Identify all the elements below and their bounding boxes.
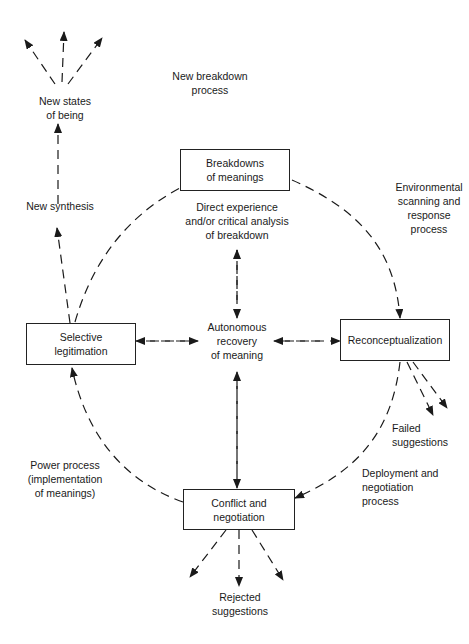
box-text: of meanings (206, 170, 264, 184)
box-text: legitimation (54, 344, 107, 358)
new-states-arrow-left (25, 40, 55, 84)
rejected-arrow-left (190, 530, 226, 577)
box-reconceptualization: Reconceptualization (340, 319, 450, 361)
arc-breakdowns-to-reconceptualization (292, 180, 400, 318)
box-breakdowns-of-meanings: Breakdownsof meanings (180, 149, 290, 191)
new-states-arrow-right (68, 38, 102, 84)
selective-to-synthesis-arrow (57, 228, 70, 323)
box-text: negotiation (211, 510, 266, 524)
failed-arrow-1 (407, 362, 433, 415)
box-conflict-and-negotiation: Conflict andnegotiation (183, 489, 295, 530)
box-text: Conflict and (211, 496, 266, 510)
box-text: Selective (54, 330, 107, 344)
label-environmental-scanning: Environmentalscanning andresponseprocess (389, 180, 469, 236)
label-direct-experience: Direct experienceand/or critical analysi… (172, 200, 302, 242)
label-rejected-suggestions: Rejectedsuggestions (200, 590, 280, 618)
label-power-process: Power process(implementationof meanings) (24, 458, 106, 500)
label-new-states-of-being: New statesof being (30, 94, 100, 122)
label-new-synthesis: New synthesis (20, 199, 100, 213)
box-text: Reconceptualization (348, 333, 443, 347)
label-autonomous-recovery: Autonomousrecoveryof meaning (195, 320, 279, 362)
label-new-breakdown-process: New breakdownprocess (165, 69, 255, 97)
label-failed-suggestions: Failedsuggestions (392, 421, 448, 449)
box-selective-legitimation: Selectivelegitimation (26, 323, 136, 365)
rejected-arrow-right (252, 530, 283, 580)
new-states-arrow-up (62, 32, 64, 82)
label-deployment-negotiation: Deployment andnegotiationprocess (362, 466, 438, 508)
box-text: Breakdowns (206, 156, 264, 170)
failed-arrow-2 (413, 362, 447, 408)
